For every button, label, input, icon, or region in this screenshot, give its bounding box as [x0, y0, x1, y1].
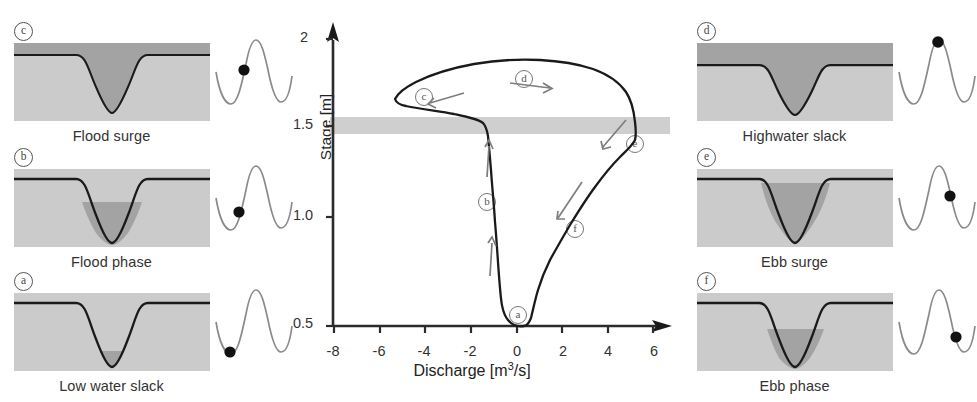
tide-dot-f	[950, 331, 961, 342]
tide-dot-b	[233, 206, 244, 217]
channel-svg-b	[14, 169, 210, 247]
panel-caption-d: Highwater slack	[697, 128, 892, 144]
panel-caption-b: Flood phase	[14, 254, 209, 270]
chart-svg	[282, 0, 682, 402]
marsh-surface-band	[330, 117, 670, 134]
panel-marker-a: a	[14, 272, 33, 291]
tide-dot-d	[932, 36, 944, 48]
panel-caption-f: Ebb phase	[697, 378, 892, 394]
tide-curve-f	[897, 284, 977, 368]
channel-cross-section-a	[14, 293, 210, 375]
tide-curve-svg-e	[897, 160, 977, 240]
panel-marker-e: e	[697, 148, 716, 167]
panel-marker-d: d	[697, 22, 716, 41]
panel-marker-c: c	[14, 22, 33, 41]
tide-curve-d	[897, 34, 977, 118]
channel-svg-a	[14, 293, 210, 371]
channel-cross-section-e	[697, 169, 893, 251]
channel-cross-section-f	[697, 293, 893, 375]
tide-dot-c	[238, 64, 249, 75]
channel-cross-section-d	[697, 43, 893, 125]
panel-marker-b: b	[14, 148, 33, 167]
panel-caption-a: Low water slack	[14, 378, 209, 394]
channel-svg-f	[697, 293, 893, 371]
flow-arrows	[428, 83, 626, 276]
panel-caption-c: Flood surge	[14, 128, 209, 144]
hysteresis-curve	[395, 60, 636, 327]
panel-marker-f: f	[697, 272, 716, 291]
stage-discharge-chart: Stage [m] Discharge [m3/s] Marsh Surface…	[282, 0, 682, 402]
channel-cross-section-c	[14, 43, 210, 125]
panel-caption-e: Ebb surge	[697, 254, 892, 270]
channel-cross-section-b	[14, 169, 210, 251]
tide-dot-a	[224, 346, 235, 357]
channel-svg-e	[697, 169, 893, 247]
tide-curve-svg-f	[897, 284, 977, 364]
channel-svg-c	[14, 43, 210, 121]
tide-dot-e	[944, 190, 955, 201]
tide-curve-e	[897, 160, 977, 244]
channel-svg-d	[697, 43, 893, 121]
tide-curve-svg-d	[897, 34, 977, 114]
